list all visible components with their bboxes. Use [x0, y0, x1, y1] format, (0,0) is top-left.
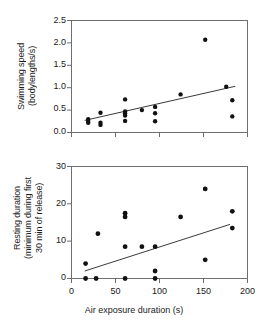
data-point [123, 215, 128, 220]
data-point [153, 105, 157, 109]
data-point [203, 257, 208, 262]
data-point [153, 111, 157, 115]
data-point [140, 244, 145, 249]
data-point [153, 119, 157, 123]
data-point [98, 111, 102, 115]
resting-duration-panel: Resting duration (minimum during first 3… [0, 150, 268, 333]
data-point [203, 187, 208, 192]
bottom-plot-area [0, 150, 268, 333]
data-point [230, 98, 234, 102]
data-point [230, 209, 235, 214]
data-point [178, 92, 182, 96]
data-point [123, 119, 127, 123]
data-point [153, 244, 158, 249]
bottom-y-tickmarks [67, 167, 72, 279]
top-y-tickmarks [67, 21, 72, 133]
data-point [123, 113, 127, 117]
data-point [123, 276, 128, 281]
data-point [203, 38, 207, 42]
top-trendline [85, 86, 236, 120]
data-point [83, 276, 88, 281]
data-point [123, 97, 127, 101]
data-point [153, 276, 158, 281]
top-x-tickmarks [72, 133, 248, 138]
data-point [153, 269, 158, 274]
data-point [230, 226, 235, 231]
data-point [86, 121, 90, 125]
bottom-trendline [85, 224, 230, 271]
data-point [83, 261, 88, 266]
data-point [230, 114, 234, 118]
swimming-speed-panel: Swimming speed (bodylengths/s) 2.5 2.0 1… [0, 0, 268, 150]
figure-container: Swimming speed (bodylengths/s) 2.5 2.0 1… [0, 0, 268, 333]
data-point [224, 85, 228, 89]
top-data-points [86, 38, 235, 128]
top-plot-frame [72, 21, 248, 133]
data-point [140, 108, 144, 112]
data-point [178, 215, 183, 220]
bottom-plot-frame [72, 167, 248, 279]
bottom-data-points [83, 187, 235, 281]
data-point [94, 276, 99, 281]
data-point [98, 123, 102, 127]
top-plot-area [0, 0, 268, 150]
data-point [96, 231, 101, 236]
data-point [123, 244, 128, 249]
